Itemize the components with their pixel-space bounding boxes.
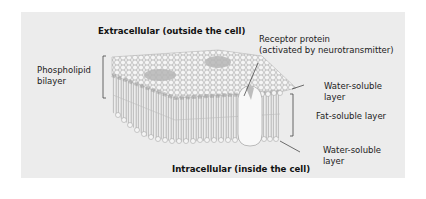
extracellular-title: Extracellular (outside the cell)	[98, 26, 245, 36]
water-top-label-2: layer	[324, 92, 345, 102]
water-bottom-label-2: layer	[323, 156, 344, 166]
phospholipid-bracket	[103, 56, 106, 98]
fat-layer-label: Fat-soluble layer	[316, 111, 386, 121]
water-bottom-label-1: Water-soluble	[323, 145, 381, 155]
water-top-label-1: Water-soluble	[324, 81, 382, 91]
intracellular-title: Intracellular (inside the cell)	[172, 164, 310, 174]
phospholipid-label-2: bilayer	[37, 76, 66, 86]
receptor-label-2: (activated by neurotransmitter)	[259, 45, 394, 55]
receptor-label-1: Receptor protein	[259, 34, 330, 44]
embedded-protein	[144, 69, 176, 81]
fat-layer-bracket	[290, 94, 293, 136]
phospholipid-label-1: Phospholipid	[37, 65, 91, 75]
embedded-protein	[205, 56, 231, 68]
water-bottom-leader-line	[280, 141, 300, 152]
